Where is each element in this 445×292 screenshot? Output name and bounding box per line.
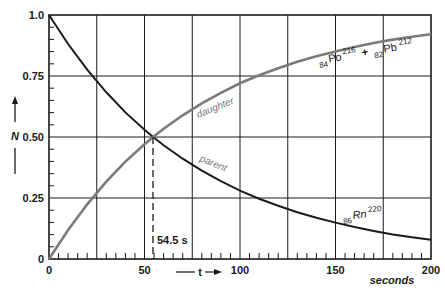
daughter-isotopes-label: 84 Po 216 + 82 Pb 212	[317, 36, 415, 70]
y-tick-label: 0.75	[23, 70, 44, 82]
x-axis-label: t	[198, 266, 202, 278]
x-tick-label: 200	[422, 264, 440, 276]
axis-ticks	[49, 27, 421, 259]
daughter-label: daughter	[195, 95, 236, 120]
svg-text:Rn: Rn	[352, 208, 367, 221]
svg-text:220: 220	[368, 204, 383, 214]
y-axis-label: N	[11, 130, 20, 142]
y-tick-label: 0	[38, 253, 44, 265]
svg-text:212: 212	[398, 36, 413, 47]
half-life-label: 54.5 s	[157, 234, 188, 246]
y-axis-arrowhead-icon	[12, 96, 18, 104]
x-tick-label: 100	[231, 264, 249, 276]
y-tick-label: 0.50	[23, 131, 44, 143]
svg-text:+: +	[361, 45, 369, 58]
x-tick-label: 150	[326, 264, 344, 276]
y-tick-labels: 00.250.500.751.0	[23, 9, 44, 265]
x-axis-arrowhead-icon	[214, 269, 222, 275]
svg-text:86: 86	[343, 216, 353, 226]
x-unit-label: seconds	[370, 274, 415, 286]
y-tick-label: 0.25	[23, 192, 44, 204]
svg-text:84: 84	[319, 60, 330, 70]
y-tick-label: 1.0	[29, 9, 44, 21]
rn-isotope-label: 86 Rn 220	[342, 204, 384, 226]
svg-text:Pb: Pb	[382, 41, 397, 55]
svg-text:216: 216	[342, 45, 357, 56]
x-tick-label: 0	[46, 264, 52, 276]
svg-text:Po: Po	[327, 50, 342, 64]
decay-chart: 00.250.500.751.0 050100150200 N t second…	[0, 0, 445, 292]
x-tick-label: 50	[138, 264, 150, 276]
